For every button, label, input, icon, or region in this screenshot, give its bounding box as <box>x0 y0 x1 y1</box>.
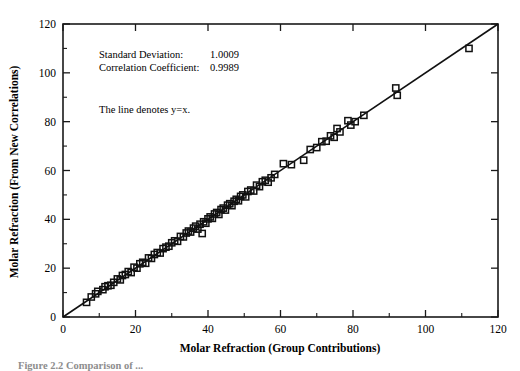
y-axis-tick-labels: 020406080100120 <box>39 18 57 323</box>
correlation-coefficient-label: Correlation Coefficient: <box>99 62 199 73</box>
data-point-marker <box>280 161 286 167</box>
y-tick-label: 0 <box>50 311 56 323</box>
data-point-marker <box>466 45 472 51</box>
x-tick-label: 40 <box>202 323 214 335</box>
x-axis-title: Molar Refraction (Group Contributions) <box>180 342 381 355</box>
y-tick-label: 120 <box>39 18 57 30</box>
data-point-marker <box>393 85 399 91</box>
std-dev-label: Standard Deviation: <box>99 49 183 60</box>
y-tick-label: 20 <box>45 262 57 274</box>
y-axis-title: Molar Refraction (From New Correlations) <box>8 65 21 278</box>
x-tick-label: 20 <box>130 323 142 335</box>
scatter-plot: 020406080100120 020406080100120 Molar Re… <box>0 0 520 371</box>
figure-container: 020406080100120 020406080100120 Molar Re… <box>0 0 520 371</box>
reference-line-note: The line denotes y=x. <box>99 104 190 115</box>
x-axis-tick-labels: 020406080100120 <box>60 323 507 335</box>
y-tick-label: 100 <box>39 67 57 79</box>
y-tick-label: 60 <box>45 165 57 177</box>
data-point-marker <box>199 230 205 236</box>
data-point-markers <box>83 45 472 305</box>
correlation-coefficient-value: 0.9989 <box>210 62 239 73</box>
data-point-marker <box>301 157 307 163</box>
y-tick-label: 40 <box>45 213 57 225</box>
x-tick-label: 60 <box>275 323 287 335</box>
figure-caption: Figure 2.2 Comparison of ... <box>18 360 144 371</box>
y-tick-label: 80 <box>45 116 57 128</box>
x-tick-label: 100 <box>417 323 435 335</box>
x-tick-label: 80 <box>347 323 359 335</box>
x-tick-label: 120 <box>489 323 507 335</box>
x-tick-label: 0 <box>60 323 66 335</box>
std-dev-value: 1.0009 <box>210 49 239 60</box>
